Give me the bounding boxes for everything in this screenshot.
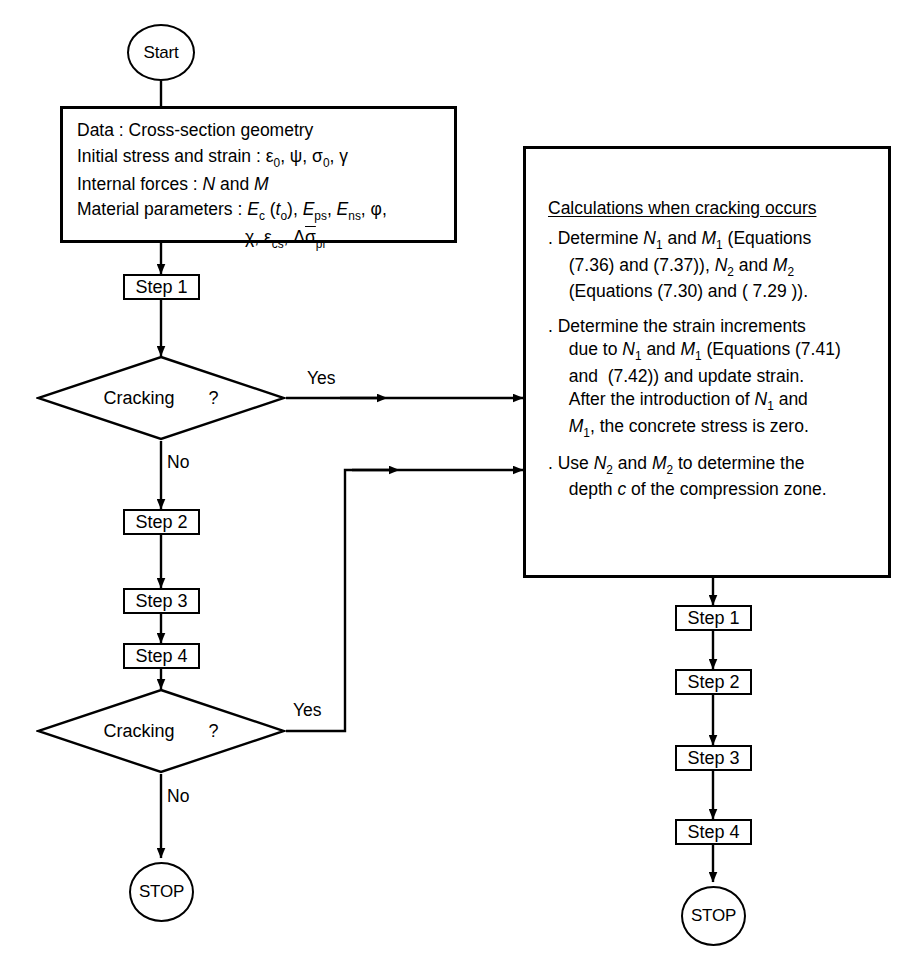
right-step-1-label: Step 1 [687, 608, 739, 629]
data-line-5-symbols: χ, εcs, Δσpr [245, 227, 326, 247]
left-stop-label: STOP [139, 882, 184, 902]
decision-cracking-1-label-wrap: Cracking ? [36, 355, 286, 441]
decision-cracking-2-question: ? [209, 721, 219, 742]
right-stop-label: STOP [691, 906, 736, 926]
data-line-1-value: Cross-section geometry [129, 120, 314, 140]
calculations-item-1: . Determine N1 and M1 (Equations (7.36) … [548, 227, 878, 303]
decision-cracking-2-label: Cracking [103, 721, 174, 742]
left-step-4-box[interactable]: Step 4 [123, 643, 200, 669]
data-line-3: Internal forces : N and M [77, 172, 442, 198]
calculations-box[interactable]: Calculations when cracking occurs . Dete… [523, 146, 891, 578]
data-line-2: Initial stress and strain : ε0, ψ, σ0, γ [77, 144, 442, 172]
data-line-4-label: Material parameters : [77, 199, 242, 219]
left-step-1-box[interactable]: Step 1 [123, 274, 200, 300]
calculations-box-content: Calculations when cracking occurs . Dete… [548, 197, 878, 502]
left-step-2-box[interactable]: Step 2 [123, 509, 200, 535]
left-step-3-label: Step 3 [135, 591, 187, 612]
data-line-1: Data : Cross-section geometry [77, 118, 442, 144]
decision-cracking-2-label-wrap: Cracking ? [36, 688, 286, 774]
left-stop-terminator[interactable]: STOP [129, 862, 194, 922]
start-terminator[interactable]: Start [127, 24, 195, 81]
data-line-3-symbols: N and M [203, 174, 269, 194]
decision1-yes-label: Yes [307, 368, 336, 389]
right-stop-terminator[interactable]: STOP [681, 886, 746, 946]
data-line-4-symbols: Ec (to), Eps, Ens, φ, [247, 199, 387, 219]
decision-cracking-1-question: ? [209, 388, 219, 409]
calculations-item-2: . Determine the strain increments due to… [548, 315, 878, 441]
right-step-3-box[interactable]: Step 3 [675, 745, 752, 771]
right-step-4-label: Step 4 [687, 822, 739, 843]
data-box[interactable]: Data : Cross-section geometry Initial st… [60, 106, 457, 243]
right-step-4-box[interactable]: Step 4 [675, 819, 752, 845]
data-line-1-label: Data : [77, 120, 124, 140]
data-line-3-label: Internal forces : [77, 174, 198, 194]
decision-cracking-2[interactable]: Cracking ? [36, 688, 286, 774]
right-step-2-label: Step 2 [687, 672, 739, 693]
decision1-no-label: No [167, 452, 189, 473]
start-label: Start [144, 43, 179, 63]
data-line-2-symbols: ε0, ψ, σ0, γ [266, 146, 348, 166]
data-line-2-label: Initial stress and strain : [77, 146, 261, 166]
decision-cracking-1[interactable]: Cracking ? [36, 355, 286, 441]
data-line-5: χ, εcs, Δσpr [77, 225, 442, 253]
right-step-3-label: Step 3 [687, 748, 739, 769]
calculations-box-title: Calculations when cracking occurs [548, 197, 878, 220]
left-step-1-label: Step 1 [135, 277, 187, 298]
decision-cracking-1-label: Cracking [103, 388, 174, 409]
left-step-2-label: Step 2 [135, 512, 187, 533]
data-box-content: Data : Cross-section geometry Initial st… [63, 109, 454, 259]
right-step-1-box[interactable]: Step 1 [675, 605, 752, 631]
edge-decision2-yes [286, 470, 523, 731]
left-step-4-label: Step 4 [135, 646, 187, 667]
flowchart-canvas: Start Data : Cross-section geometry Init… [0, 0, 915, 972]
right-step-2-box[interactable]: Step 2 [675, 669, 752, 695]
calculations-item-3: . Use N2 and M2 to determine the depth c… [548, 452, 878, 502]
data-line-4: Material parameters : Ec (to), Eps, Ens,… [77, 197, 442, 225]
left-step-3-box[interactable]: Step 3 [123, 588, 200, 614]
decision2-yes-label: Yes [293, 700, 322, 721]
decision2-no-label: No [167, 786, 189, 807]
